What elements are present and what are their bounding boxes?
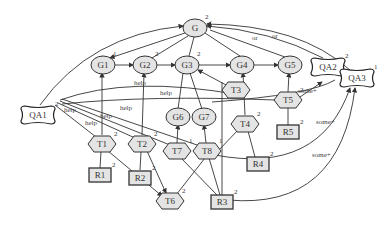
edge-label-help: help [64,106,77,114]
node-label: QA1 [29,110,47,120]
node-label: R2 [135,173,146,183]
task-t5[interactable]: T52 [274,86,304,108]
node-number: 1 [374,63,378,71]
edge-r2-t2 [140,152,141,170]
node-label: T4 [240,119,250,129]
resource-r5[interactable]: R52 [277,118,304,139]
node-label: G1 [98,60,109,70]
node-number: 2 [152,164,156,172]
goal-g7[interactable]: G7 [192,108,216,126]
node-number: 2 [55,100,59,108]
edge-r1-t1 [100,152,101,168]
edge-r4-t4 [248,131,255,157]
node-label: G3 [182,60,193,70]
node-label: R3 [217,197,228,207]
goal-g4[interactable]: G4 [230,56,254,74]
node-label: T6 [165,196,175,206]
node-label: T7 [172,146,182,156]
edge-t5-g5 [288,73,289,92]
edge-t8-g7 [204,125,206,143]
node-label: T1 [97,139,107,149]
node-number: 2 [155,50,159,58]
edge-r3-t8 [209,158,220,195]
edge-g-g3 [189,37,194,56]
edge-help-5 [60,101,170,145]
node-number: 2 [270,150,274,158]
node-number: 2 [257,110,261,118]
node-label: G7 [199,112,210,122]
node-label: R5 [283,127,294,137]
node-number: 2 [197,50,201,58]
task-t1[interactable]: T12 [88,130,118,152]
node-number: 2 [205,13,209,21]
node-label: G6 [173,112,184,122]
goal-g6[interactable]: G6 [166,108,190,126]
node-number: 2 [114,130,118,138]
node-label: G2 [140,60,151,70]
edge-g-g1 [110,33,185,58]
edge-t7-g6 [177,125,178,143]
edge-t6-t8 [176,158,205,195]
node-label: G5 [285,60,296,70]
edge-label-or: or [252,34,259,42]
node-number: 2 [154,130,158,138]
quality-qa1[interactable]: QA12 [21,100,59,124]
edge-label-or: or [272,32,279,40]
task-t3[interactable]: T3 [222,82,250,98]
goal-g5[interactable]: G5 [278,56,302,74]
edge-label-help: help [120,104,133,112]
node-number: 2 [234,188,238,196]
resource-r3[interactable]: R32 [211,188,238,209]
node-number: 2 [300,118,304,126]
edge-label-help: help [85,119,98,127]
node-label: T5 [283,95,293,105]
goal-g2[interactable]: G22 [133,50,159,74]
node-label: G4 [237,60,248,70]
node-number: 2 [182,187,186,195]
node-label: QA2 [319,62,337,72]
node-label: QA3 [348,73,366,83]
goal-g3[interactable]: G32 [175,50,201,74]
edge-label-some-plus: some+ [316,118,335,126]
node-label: T8 [202,146,212,156]
node-label: R1 [95,170,106,180]
node-number: 1 [189,137,193,145]
node-number: 2 [345,52,349,60]
resource-r2[interactable]: R22 [129,164,156,185]
edge-g3-g7 [190,73,202,109]
node-number: 1 [219,137,223,145]
edge-label-help: help [160,89,173,97]
goal-model-diagram: help help help help help help or or some… [0,0,388,225]
task-t2[interactable]: T22 [128,130,158,152]
task-t7[interactable]: T71 [163,137,193,159]
goal-g[interactable]: G2 [183,13,209,37]
node-label: T2 [137,139,147,149]
edge-label-help: help [100,112,113,120]
resource-r4[interactable]: R42 [247,150,274,171]
node-label: R4 [253,159,264,169]
node-label: G [192,23,199,33]
node-number: 2 [112,161,116,169]
edge-r3-t7 [181,158,218,196]
node-label: T3 [231,85,241,95]
task-t6[interactable]: T62 [156,187,186,209]
edge-label-help: help [134,79,147,87]
edge-g-g4 [205,33,240,56]
edge-g3-g6 [178,73,183,109]
edge-label-some-plus: some+ [312,151,331,159]
task-t4[interactable]: T42 [231,110,261,132]
resource-r1[interactable]: R12 [89,161,116,182]
node-number: 1 [113,50,117,58]
edge-t3-g3 [198,70,228,86]
node-number: 2 [300,86,304,94]
